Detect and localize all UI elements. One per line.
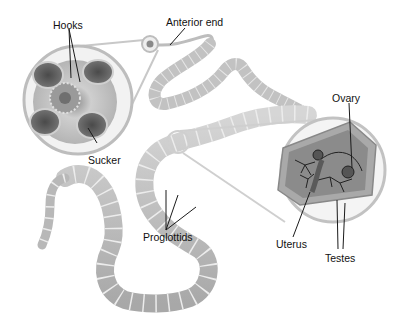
label-hooks: Hooks <box>53 20 83 31</box>
tapeworm-diagram: Hooks Anterior end Sucker Ovary Proglott… <box>0 0 401 321</box>
label-uterus: Uterus <box>276 239 307 250</box>
scolex-magnifier <box>24 36 158 154</box>
label-proglottids: Proglottids <box>143 232 193 243</box>
label-ovary: Ovary <box>332 93 360 104</box>
label-sucker: Sucker <box>88 155 121 166</box>
label-testes: Testes <box>325 253 355 264</box>
label-anterior-end: Anterior end <box>166 17 223 28</box>
